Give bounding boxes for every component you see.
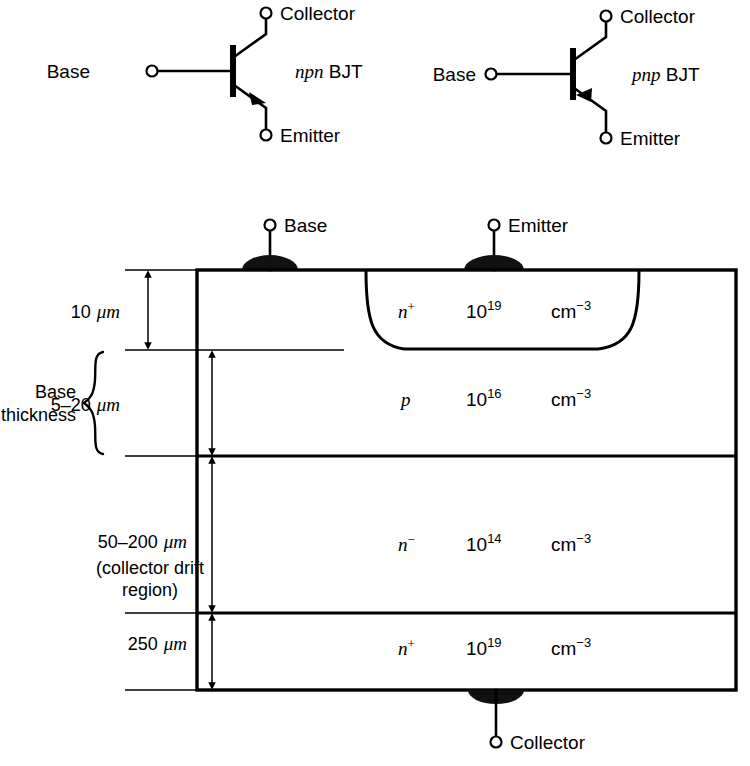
layer-label-base: p [399,389,411,410]
dim-base-units: μm [96,394,120,415]
layer-substrate-mantissa: 10 [466,638,487,659]
layer-base-units: cm [551,389,576,410]
dim-substrate-units: μm [163,633,187,654]
layer-base-units-exp: −3 [576,386,591,401]
layer-emitter-mantissa: 10 [466,301,487,322]
base-thickness-caption-line1: Base [35,382,76,402]
layer-drift-sign: − [408,532,415,547]
dim-label-emitter-depth: 10μm [71,301,120,322]
layer-conc-emitter: 1019 [466,298,502,322]
npn-type-label: npn BJT [295,61,363,82]
dim-substrate-value: 250 [128,634,158,654]
layer-emitter-units: cm [551,301,576,322]
dim-drift-units: μm [163,531,187,552]
dim-emitter-value: 10 [71,302,91,322]
drift-region-caption-line1: (collector drift [96,558,204,578]
npn-collector-label: Collector [280,3,356,24]
layer-emitter-sign: + [408,299,415,314]
xsec-collector-label: Collector [510,732,586,753]
layer-drift-units-exp: −3 [576,531,591,546]
base-thickness-caption-line2: thickness [1,405,76,425]
bjt-figure: Base Collector Emitter npn BJT Base Coll… [0,0,750,766]
xsec-base-contact-metal [242,255,298,270]
xsec-base-label: Base [284,215,327,236]
xsec-dimension-labels: 10μm 5–20μm 50–200μm 250μm [51,301,187,654]
layer-label-emitter: n+ [398,299,415,322]
xsec-device-body [197,270,736,690]
pnp-type-rest: BJT [661,64,700,85]
dim-label-drift-thickness: 50–200μm [98,531,187,552]
layer-substrate-sign: + [408,636,415,651]
xsec-dimension-arrows [148,274,212,686]
pnp-base-label: Base [433,64,476,85]
dim-drift-value: 50–200 [98,532,158,552]
layer-base-exponent: 16 [487,386,501,401]
layer-substrate-exponent: 19 [487,635,501,650]
pnp-symbol: Base Collector Emitter pnp BJT [433,6,700,149]
layer-drift-type: n [398,534,408,555]
xsec-collector-terminal-group: Collector [468,690,586,753]
layer-conc-base: 1016 [466,386,502,410]
drift-region-caption-line2: region) [122,580,178,600]
cross-section: Base Emitter [1,215,736,753]
xsec-base-terminal [265,220,276,231]
layer-label-drift: n− [398,532,415,555]
layer-units-drift: cm−3 [551,531,591,555]
layer-conc-drift: 1014 [466,531,502,555]
layer-units-substrate: cm−3 [551,635,591,659]
xsec-doping-labels: n+ 1019 cm−3 p 1016 cm−3 [398,298,591,659]
dim-label-substrate-thickness: 250μm [128,633,187,654]
pnp-emitter-terminal [601,133,612,144]
pnp-collector-lead [574,21,606,60]
layer-drift-exponent: 14 [487,531,501,546]
xsec-collector-terminal [491,737,502,748]
layer-emitter-units-exp: −3 [576,298,591,313]
layer-substrate-units: cm [551,638,576,659]
xsec-dimension-extensions [125,270,197,690]
npn-emitter-arrow-out-icon [249,92,266,105]
layer-units-base: cm−3 [551,386,591,410]
layer-emitter-exponent: 19 [487,298,501,313]
layer-substrate-units-exp: −3 [576,635,591,650]
layer-drift-units: cm [551,534,576,555]
xsec-emitter-terminal-group: Emitter [464,215,569,270]
npn-base-label: Base [47,61,90,82]
xsec-emitter-contact-metal [464,255,524,270]
layer-base-type: p [399,389,411,410]
layer-base-mantissa: 10 [466,389,487,410]
pnp-emitter-label: Emitter [620,128,681,149]
layer-substrate-type: n [398,638,408,659]
pnp-collector-label: Collector [620,6,696,27]
layer-units-emitter: cm−3 [551,298,591,322]
npn-emitter-label: Emitter [280,125,341,146]
layer-label-substrate: n+ [398,636,415,659]
layer-conc-substrate: 1019 [466,635,502,659]
pnp-base-terminal [486,69,497,80]
figure-page: Base Collector Emitter npn BJT Base Coll… [0,0,750,766]
npn-collector-terminal [261,8,272,19]
dim-emitter-units: μm [96,301,120,322]
npn-type-italic: npn [295,61,324,82]
xsec-emitter-label: Emitter [508,215,569,236]
xsec-emitter-terminal [489,220,500,231]
npn-base-terminal [147,66,158,77]
pnp-type-italic: pnp [630,64,661,85]
xsec-base-terminal-group: Base [242,215,327,270]
layer-drift-mantissa: 10 [466,534,487,555]
pnp-type-label: pnp BJT [630,64,700,85]
npn-symbol: Base Collector Emitter npn BJT [47,3,363,146]
pnp-collector-terminal [601,11,612,22]
npn-emitter-lead [234,85,266,129]
layer-emitter-type: n [398,301,408,322]
drift-region-annotation: (collector drift region) [96,558,204,600]
npn-type-rest: BJT [324,61,363,82]
npn-collector-lead [234,18,266,57]
npn-emitter-terminal [261,130,272,141]
